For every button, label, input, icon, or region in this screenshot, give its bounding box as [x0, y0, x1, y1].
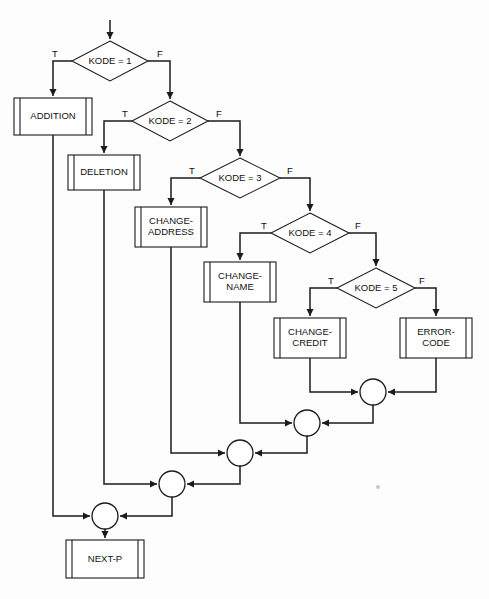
arrowhead-6	[306, 204, 313, 211]
process-label-line: CHANGE-	[288, 326, 332, 337]
edge-error-code-to-merge5	[388, 358, 436, 392]
arrowhead-0	[106, 32, 113, 39]
merge-connector-merge-1[interactable]	[92, 503, 118, 529]
process-label-line: DELETION	[80, 166, 128, 177]
process-change-address[interactable]: CHANGE-ADDRESS	[135, 207, 207, 247]
edge-kode2-false-to-kode3	[208, 121, 240, 156]
arrowhead-13	[285, 419, 292, 426]
arrowhead-3	[100, 146, 107, 153]
arrowhead-15	[218, 449, 225, 456]
edge-kode3-false-to-kode4	[280, 178, 310, 211]
process-label-line: CHANGE-	[149, 215, 193, 226]
arrowhead-7	[236, 253, 243, 260]
arrowhead-12	[388, 388, 395, 395]
arrowhead-19	[83, 512, 90, 519]
decision-label: KODE = 1	[88, 55, 131, 66]
arrowhead-21	[101, 531, 108, 538]
edge-change-credit-to-merge5	[310, 358, 358, 392]
edge-merge2-to-merge1	[120, 497, 172, 516]
decision-kode2[interactable]: KODE = 2	[132, 101, 208, 141]
process-label-line: NAME	[226, 281, 253, 292]
arrowhead-20	[120, 512, 127, 519]
edge-merge3-to-merge2	[187, 466, 240, 484]
arrowhead-10	[432, 309, 439, 316]
merge-connector-merge-5[interactable]	[360, 379, 386, 405]
arrowhead-5	[167, 198, 174, 205]
branch-label-true-kode5: T	[328, 275, 334, 286]
arrowhead-14	[322, 419, 329, 426]
decision-kode4[interactable]: KODE = 4	[271, 213, 349, 253]
decision-kode1[interactable]: KODE = 1	[72, 41, 148, 81]
process-label-line: ERROR-	[417, 326, 454, 337]
decision-label: KODE = 5	[354, 282, 397, 293]
branch-label-true-kode2: T	[122, 108, 128, 119]
branch-label-true-kode3: T	[189, 165, 195, 176]
flowchart-svg: KODE = 1KODE = 2KODE = 3KODE = 4KODE = 5…	[0, 0, 489, 599]
arrowhead-4	[236, 149, 243, 156]
process-label-line: NEXT-P	[88, 553, 122, 564]
arrowhead-17	[150, 480, 157, 487]
artifact-layer	[376, 485, 380, 489]
branch-label-false-kode3: F	[287, 165, 293, 176]
decision-kode5[interactable]: KODE = 5	[337, 268, 415, 308]
arrowhead-18	[187, 480, 194, 487]
edge-kode5-false-to-error-code	[415, 288, 436, 316]
arrowhead-1	[49, 89, 56, 96]
decision-label: KODE = 4	[288, 227, 331, 238]
process-label-line: ADDITION	[30, 110, 76, 121]
process-change-name[interactable]: CHANGE-NAME	[204, 262, 276, 302]
arrowhead-9	[306, 309, 313, 316]
arrowhead-16	[255, 449, 262, 456]
branch-label-false-kode4: F	[355, 220, 361, 231]
process-label-line: CHANGE-	[218, 270, 262, 281]
decision-label: KODE = 3	[218, 172, 261, 183]
edge-kode5-true-to-change-credit	[310, 288, 337, 316]
process-label-line: CODE	[422, 337, 449, 348]
merge-connector-merge-3[interactable]	[227, 440, 253, 466]
process-addition[interactable]: ADDITION	[14, 98, 92, 135]
branch-label-false-kode1: F	[157, 48, 163, 59]
decision-kode3[interactable]: KODE = 3	[200, 158, 280, 198]
process-error-code[interactable]: ERROR-CODE	[400, 318, 472, 358]
flowchart-canvas: KODE = 1KODE = 2KODE = 3KODE = 4KODE = 5…	[0, 0, 489, 599]
process-next-p[interactable]: NEXT-P	[66, 540, 144, 578]
process-deletion[interactable]: DELETION	[68, 155, 140, 190]
branch-label-true-kode1: T	[52, 48, 58, 59]
edge-kode1-false-to-kode2	[148, 61, 170, 99]
process-label-line: ADDRESS	[148, 226, 194, 237]
edge-addition-to-merge1	[53, 135, 90, 516]
branch-label-true-kode4: T	[261, 220, 267, 231]
arrowhead-8	[372, 259, 379, 266]
merge-connector-merge-4[interactable]	[294, 410, 320, 436]
process-change-credit[interactable]: CHANGE-CREDIT	[274, 318, 346, 358]
merge-connector-merge-2[interactable]	[159, 471, 185, 497]
page-artifact-speck	[376, 485, 380, 489]
decision-label: KODE = 2	[148, 115, 191, 126]
edge-kode3-true-to-change-address	[171, 178, 200, 205]
arrowhead-11	[351, 388, 358, 395]
arrowhead-2	[166, 92, 173, 99]
branch-label-false-kode2: F	[216, 108, 222, 119]
edge-kode2-true-to-deletion	[104, 121, 132, 153]
connectors-layer	[92, 379, 386, 529]
branch-label-false-kode5: F	[419, 275, 425, 286]
edge-merge5-to-merge4	[322, 405, 373, 423]
process-label-line: CREDIT	[292, 337, 328, 348]
edge-kode1-true-to-addition	[53, 61, 72, 96]
edge-kode4-true-to-change-name	[240, 233, 271, 260]
edge-merge4-to-merge3	[255, 436, 307, 453]
edge-kode4-false-to-kode5	[349, 233, 376, 266]
